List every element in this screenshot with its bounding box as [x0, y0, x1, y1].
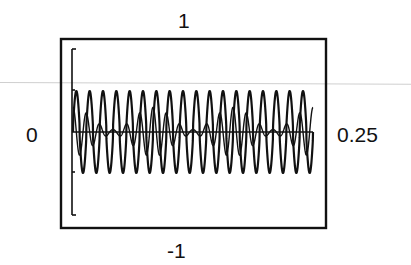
x-start-label: 0 [26, 124, 38, 145]
x-end-label: 0.25 [337, 124, 378, 145]
y-min-label: -1 [167, 240, 186, 261]
y-max-label: 1 [178, 10, 190, 31]
